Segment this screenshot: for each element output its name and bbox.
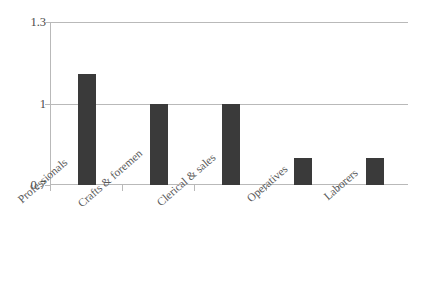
bars-layer: [50, 22, 408, 185]
bar-professionals[interactable]: [78, 74, 96, 185]
bar-operatives[interactable]: [294, 158, 312, 185]
x-tick-mark-1: [122, 185, 123, 191]
y-tick-label-top: 1.3: [14, 16, 46, 29]
x-tick-mark-0: [50, 185, 51, 191]
x-tick-mark-2: [194, 185, 195, 191]
bar-crafts-foremen[interactable]: [150, 104, 168, 186]
bar-laborers[interactable]: [366, 158, 384, 185]
y-tick-label-mid: 1: [14, 98, 46, 111]
bar-clerical-sales[interactable]: [222, 104, 240, 186]
bar-chart: 1.3 1 0.7 Professionals Crafts & foremen…: [0, 0, 429, 284]
plot-area: [50, 22, 408, 185]
